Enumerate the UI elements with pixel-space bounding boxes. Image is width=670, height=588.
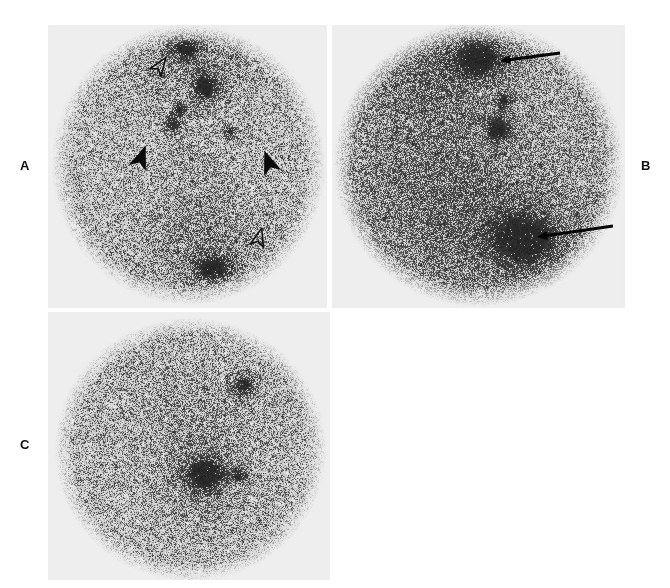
panel-c (48, 312, 330, 580)
solid-arrowhead-right (257, 149, 279, 175)
panel-b-label: B (641, 159, 651, 172)
panel-b-annotation-overlay (332, 25, 625, 308)
panel-a-annotation-overlay (48, 25, 327, 308)
panel-c-annotation-overlay (48, 312, 330, 580)
panel-a (48, 25, 327, 308)
panel-c-label: C (20, 438, 30, 451)
open-arrowhead-lower-right (250, 226, 268, 247)
solid-arrowhead-left (130, 144, 152, 170)
arrow-lower (537, 226, 613, 240)
panel-b (332, 25, 625, 308)
figure-root: A B C (0, 0, 670, 588)
panel-a-label: A (20, 159, 30, 172)
open-arrowhead-upper-left (150, 54, 172, 77)
arrow-upper (500, 53, 560, 64)
